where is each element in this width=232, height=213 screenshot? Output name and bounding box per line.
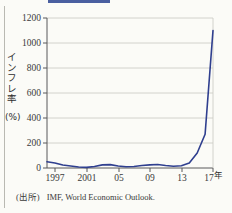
plot-gridlines (47, 18, 213, 143)
y-tick-1200: 1200 (22, 13, 41, 23)
x-tick-labels: 1997 2001 05 09 13 17 (46, 173, 215, 183)
y-axis-title-char-1: イ (5, 52, 19, 63)
x-tick-2001: 2001 (78, 173, 97, 183)
x-tick-1997: 1997 (46, 173, 65, 183)
y-axis-unit-label: (%) (5, 112, 19, 122)
y-tick-600: 600 (27, 88, 42, 98)
y-tick-800: 800 (27, 63, 42, 73)
y-tick-0: 0 (36, 163, 41, 173)
y-tick-1000: 1000 (22, 38, 41, 48)
y-axis-title-char-3: フ (5, 73, 19, 84)
source-text: IMF, World Economic Outlook. (47, 192, 155, 202)
x-tick-17: 17 (204, 173, 214, 183)
inflation-rate-line-chart: 0 200 400 600 800 1000 1200 1997 2001 05… (0, 0, 232, 213)
inflation-series-line (47, 31, 213, 168)
source-label: (出所) (16, 192, 40, 202)
y-tick-400: 400 (27, 113, 42, 123)
source-note: (出所)IMF, World Economic Outlook. (16, 190, 155, 202)
x-axis-unit-suffix: 年 (214, 168, 223, 180)
figure-panel: 0 200 400 600 800 1000 1200 1997 2001 05… (0, 0, 232, 213)
y-axis-title-char-5: 率 (5, 94, 19, 105)
x-tick-09: 09 (145, 173, 155, 183)
x-tick-marks (55, 168, 213, 172)
x-tick-13: 13 (177, 173, 187, 183)
chart-svg: 0 200 400 600 800 1000 1200 1997 2001 05… (0, 0, 232, 213)
y-tick-marks (43, 18, 47, 168)
y-axis-title: イ ン フ レ 率 (5, 52, 19, 105)
y-tick-labels: 0 200 400 600 800 1000 1200 (22, 13, 41, 173)
x-tick-05: 05 (114, 173, 124, 183)
y-tick-200: 200 (27, 138, 42, 148)
